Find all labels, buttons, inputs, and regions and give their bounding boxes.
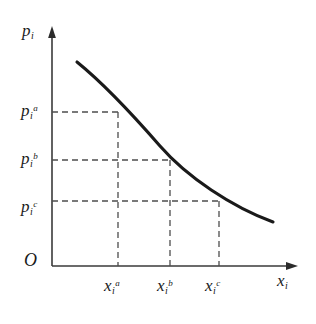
quantity-tick-label-c: xic — [205, 277, 220, 296]
x-axis-label-subscript: i — [285, 280, 288, 291]
quantity-tick-b-superscript: b — [168, 278, 173, 288]
price-tick-b-superscript: b — [33, 151, 38, 161]
quantity-tick-a-base: x — [104, 276, 112, 295]
price-tick-b-base: p — [21, 149, 30, 168]
origin-label: O — [24, 250, 37, 271]
price-tick-label-c: pic — [21, 198, 37, 217]
quantity-tick-c-base: x — [205, 276, 213, 295]
y-axis-arrowhead — [48, 26, 56, 38]
y-axis-label-subscript: i — [31, 30, 34, 41]
x-axis-label-base: x — [277, 271, 285, 290]
quantity-guide-lines — [118, 112, 219, 266]
price-tick-label-b: pib — [21, 150, 38, 169]
price-guide-lines — [52, 112, 221, 201]
quantity-tick-b-base: x — [157, 276, 165, 295]
y-axis-label-base: p — [22, 21, 31, 40]
demand-curve-figure: O pi xi pia pib pic xia xib xic — [0, 0, 316, 324]
price-tick-c-base: p — [21, 197, 30, 216]
quantity-tick-label-a: xia — [104, 277, 120, 296]
y-axis — [48, 26, 56, 266]
price-tick-a-base: p — [21, 101, 30, 120]
price-tick-c-superscript: c — [33, 199, 37, 209]
price-tick-label-a: pia — [21, 102, 38, 121]
quantity-tick-label-b: xib — [157, 277, 173, 296]
y-axis-label: pi — [22, 22, 34, 41]
demand-curve-line — [77, 62, 273, 222]
price-tick-a-superscript: a — [33, 103, 38, 113]
quantity-tick-a-superscript: a — [115, 278, 120, 288]
quantity-tick-c-superscript: c — [216, 278, 220, 288]
x-axis-arrowhead — [286, 262, 298, 270]
x-axis-label: xi — [277, 272, 288, 291]
x-axis — [52, 262, 298, 270]
